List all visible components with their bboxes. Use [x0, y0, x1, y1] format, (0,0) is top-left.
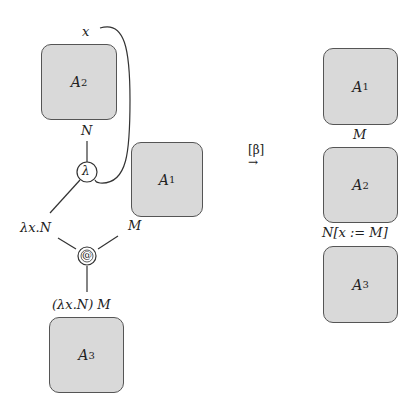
- label-lambda-term: λx.N: [20, 220, 51, 235]
- app-node-label: @: [82, 249, 92, 260]
- box-label: A: [159, 172, 169, 188]
- box-subscript: 3: [362, 279, 368, 290]
- label-subst: N[x := M]: [322, 225, 388, 240]
- box-subscript: 2: [81, 77, 87, 88]
- box-label: A: [352, 79, 362, 95]
- box-a3-right: A3: [323, 246, 398, 323]
- label-m-left: M: [128, 218, 141, 233]
- lambda-node-label: λ: [82, 164, 90, 178]
- box-a2-left: A2: [41, 44, 117, 120]
- box-label: A: [71, 74, 81, 90]
- label-m-right: M: [353, 127, 366, 142]
- box-a3-left: A3: [49, 317, 124, 393]
- box-label: A: [352, 177, 362, 193]
- label-app-term: (λx.N) M: [52, 297, 111, 312]
- box-a1-left: A1: [131, 142, 203, 217]
- box-label: A: [78, 347, 88, 363]
- box-a1-right: A1: [323, 48, 398, 125]
- box-label: A: [352, 277, 362, 293]
- box-subscript: 1: [362, 81, 368, 92]
- arrow-icon: →: [248, 155, 258, 169]
- box-subscript: 1: [169, 174, 175, 185]
- box-a2-right: A2: [323, 147, 398, 223]
- box-subscript: 3: [88, 350, 94, 361]
- label-n: N: [81, 123, 92, 138]
- box-subscript: 2: [362, 180, 368, 191]
- label-x: x: [82, 24, 89, 39]
